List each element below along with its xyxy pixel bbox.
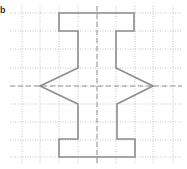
symmetric-shape [40,13,153,157]
grid-figure [0,0,187,169]
symmetry-diagram: b [0,0,187,169]
dotted-grid [10,6,182,164]
